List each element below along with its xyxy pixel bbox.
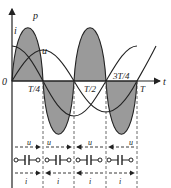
tick-label-t2: T/2 xyxy=(84,84,97,94)
seg3-i-label: i xyxy=(89,177,91,186)
t-axis-label: t xyxy=(163,76,166,87)
capacitor-1 xyxy=(14,155,40,165)
tick-label-t: T xyxy=(140,84,146,94)
seg4-u-label: u xyxy=(129,138,133,147)
capacitor-row xyxy=(14,155,133,165)
seg1-i-label: i xyxy=(25,177,27,186)
seg2-u-label: u xyxy=(47,138,51,147)
voltage-label: u xyxy=(42,45,47,56)
capacitor-4 xyxy=(107,155,133,165)
tick-label-3t4: 3T/4 xyxy=(112,71,130,81)
seg4-i-label: i xyxy=(119,177,121,186)
seg1-u-label: u xyxy=(27,138,31,147)
seg2-i-label: i xyxy=(57,177,59,186)
origin-label: 0 xyxy=(2,76,7,87)
tick-label-t4: T/4 xyxy=(28,84,41,94)
capacitor-waveform-figure: 0 t p i u T/4 T/2 3T/4 T u u u u xyxy=(0,0,171,188)
seg3-u-label: u xyxy=(88,138,92,147)
current-label: i xyxy=(14,25,17,36)
capacitor-2 xyxy=(45,155,71,165)
power-label: p xyxy=(32,10,38,21)
capacitor-3 xyxy=(76,155,102,165)
